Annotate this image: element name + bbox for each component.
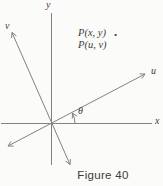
theta-label: θ bbox=[78, 106, 83, 116]
point-label-uv: P(u, v) bbox=[78, 39, 107, 50]
u-axis-line bbox=[8, 74, 145, 146]
u-axis-label: u bbox=[151, 66, 156, 76]
y-axis-label: y bbox=[46, 0, 50, 10]
v-axis-label: v bbox=[5, 21, 9, 31]
coordinate-axes-drawing bbox=[0, 0, 163, 168]
x-axis-label: x bbox=[155, 116, 159, 126]
theta-angle-arc bbox=[73, 113, 76, 123]
point-label-xy: P(x, y) bbox=[78, 27, 106, 38]
figure-caption: Figure 40 bbox=[43, 169, 163, 182]
point-dot-marker: • bbox=[114, 31, 117, 40]
v-axis-line bbox=[12, 33, 70, 165]
figure-40: y v u x θ P(x, y) • P(u, v) Figure 40 bbox=[0, 0, 163, 186]
